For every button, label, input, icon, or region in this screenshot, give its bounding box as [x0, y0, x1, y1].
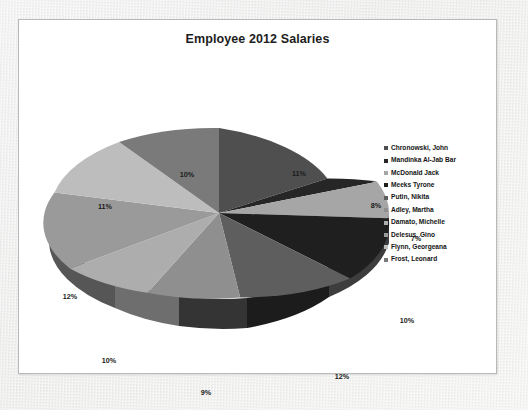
data-label-pct: 11% [98, 202, 112, 211]
legend-swatch-icon [384, 221, 388, 225]
legend-item-label: Flynn, Georgeana [391, 244, 447, 251]
legend-swatch-icon [384, 146, 388, 150]
legend-item[interactable]: Chronowski, John [384, 142, 488, 154]
data-label-pct: 12% [335, 372, 349, 381]
legend-item-label: McDonald Jack [391, 170, 439, 177]
legend-item-label: Chronowski, John [391, 145, 448, 152]
legend-item[interactable]: Flynn, Georgeana [384, 241, 488, 253]
data-label-pct: 9% [201, 388, 211, 397]
legend-swatch-icon [384, 245, 388, 249]
legend-item-label: Damato, Michelle [391, 219, 445, 226]
data-label-pct: 10% [400, 316, 414, 325]
legend-item-label: Mandinka Al-Jab Bar [391, 157, 456, 164]
chart-legend: Chronowski, John Mandinka Al-Jab Bar McD… [384, 142, 488, 266]
legend-item[interactable]: McDonald Jack [384, 167, 488, 179]
legend-item[interactable]: Adley, Martha [384, 204, 488, 216]
legend-item[interactable]: Meeks Tyrone [384, 179, 488, 191]
legend-item[interactable]: Damato, Michelle [384, 216, 488, 228]
legend-swatch-icon [384, 233, 388, 237]
chart-title: Employee 2012 Salaries [19, 32, 496, 46]
legend-swatch-icon [384, 196, 388, 200]
pie-top-face [43, 128, 389, 299]
legend-item[interactable]: Delesus, Gino [384, 229, 488, 241]
legend-item[interactable]: Putin, Nikita [384, 192, 488, 204]
data-label-pct: 12% [63, 292, 77, 301]
legend-swatch-icon [384, 258, 388, 262]
legend-item-label: Putin, Nikita [391, 194, 429, 201]
legend-item[interactable]: Frost, Leonard [384, 254, 488, 266]
legend-swatch-icon [384, 183, 388, 187]
legend-swatch-icon [384, 159, 388, 163]
data-label-pct: 10% [102, 356, 116, 365]
legend-swatch-icon [384, 208, 388, 212]
legend-item-label: Meeks Tyrone [391, 182, 435, 189]
pie-chart-plot-area: 11% 8% 7% 10% 12% 9% 10% 12% 11% 10% [19, 70, 419, 370]
data-label-pct: 10% [180, 170, 194, 179]
data-label-pct: 8% [371, 201, 381, 210]
legend-item[interactable]: Mandinka Al-Jab Bar [384, 154, 488, 166]
legend-item-label: Adley, Martha [391, 207, 434, 214]
legend-swatch-icon [384, 171, 388, 175]
pie-chart-svg [19, 70, 419, 370]
legend-item-label: Frost, Leonard [391, 256, 437, 263]
legend-item-label: Delesus, Gino [391, 232, 435, 239]
chart-panel: Employee 2012 Salaries [18, 19, 497, 374]
data-label-pct: 11% [292, 169, 306, 178]
